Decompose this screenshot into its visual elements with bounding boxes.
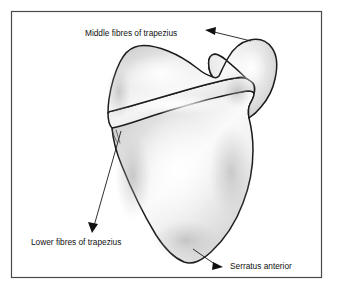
body-shadow-lateral (209, 124, 253, 220)
body-shadow-inferior (152, 220, 220, 260)
label-middle-fibres-of-trapezius: Middle fibres of trapezius (85, 28, 177, 38)
arrow-head-middle-fibres (205, 27, 216, 35)
supraspinous-shadow (107, 66, 131, 118)
arrow-head-lower-fibres (88, 222, 98, 233)
callout-line-middle-fibres (210, 31, 251, 41)
arrow-head-serratus-anterior (212, 262, 223, 270)
scapula-diagram-svg: Middle fibres of trapezius Lower fibres … (0, 0, 342, 291)
callout-middle-fibres: Middle fibres of trapezius (85, 27, 251, 41)
callout-lower-fibres: Lower fibres of trapezius (31, 131, 121, 247)
label-serratus-anterior: Serratus anterior (230, 261, 292, 271)
supraspinous-highlight (124, 54, 196, 94)
label-lower-fibres-of-trapezius: Lower fibres of trapezius (31, 237, 121, 247)
acromion-shadow (223, 76, 251, 108)
anatomical-figure: Middle fibres of trapezius Lower fibres … (0, 0, 342, 291)
body-shadow-medial (115, 132, 151, 220)
